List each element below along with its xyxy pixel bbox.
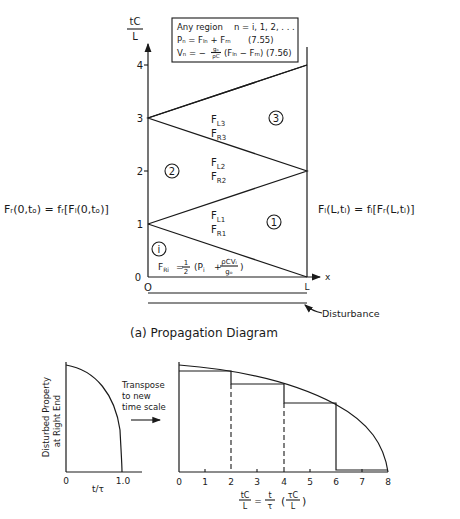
x-axis-label: x [325,272,331,282]
x-origin-label: O [144,282,152,293]
region-2-fl: FL2 [211,157,225,171]
propagation-diagram: tC L 0 1 2 3 4 x O L i 1 [4,16,415,340]
svg-text:1: 1 [202,477,208,487]
transpose-line-2: to new [122,391,151,401]
svg-text:): ) [240,262,244,272]
svg-text:ρCVᵢ: ρCVᵢ [221,258,236,266]
y-tick-4: 4 [137,60,143,71]
svg-text:t: t [268,491,271,500]
characteristic-line [148,65,307,118]
disturbance-arrow [305,305,322,313]
region-1-label: 1 [271,217,277,228]
region-3-fl: FL3 [211,114,225,128]
svg-text:3: 3 [254,477,260,487]
svg-text:2: 2 [184,268,188,276]
right-plot: 0 1 2 3 4 5 6 7 8 tC L = t τ ( τC L ) [176,362,391,511]
transpose-note: Transpose to new time scale [121,380,166,420]
legend-ref-7-56: (7.56) [266,48,292,58]
svg-text:L: L [243,502,248,511]
y-tick-1: 1 [137,219,143,230]
legend-any-region: Any region [177,22,223,32]
legend-eq-7-56-rhs: (Fₗₙ − Fᵣₙ) [224,48,263,58]
svg-text:L: L [291,502,296,511]
left-plot-ylabel-2: at Right End [52,395,62,447]
y-tick-3: 3 [137,113,143,124]
svg-text:=: = [254,496,262,506]
left-plot-ylabel-1: Disturbed Property [41,377,51,457]
x-end-label: L [304,282,309,292]
svg-text:τ: τ [268,502,273,511]
transpose-line-1: Transpose [121,380,165,390]
right-plot-xlabel: tC L = t τ ( τC L ) [239,491,306,511]
left-plot-xtick-1: 1.0 [116,476,131,486]
region-1-fr: FR1 [211,224,226,238]
legend-ref-7-55: (7.55) [248,35,274,45]
right-boundary-condition: Fₗ(L,tₗ) = fₗ[Fᵣ(L,tₗ)] [318,203,415,216]
svg-text:1: 1 [184,259,188,267]
legend-n-values: n = i, 1, 2, . . . [234,22,295,32]
svg-text:2: 2 [228,477,234,487]
right-plot-xtick-labels: 0 1 2 3 4 5 6 7 8 [176,477,391,487]
disturbance-label: Disturbance [322,308,380,319]
region-2-fr: FR2 [211,171,226,185]
left-plot-xtick-0: 0 [63,476,69,486]
svg-text:6: 6 [333,477,339,487]
region-i-label: i [158,244,161,255]
svg-text:τC: τC [288,491,299,500]
svg-text:): ) [302,495,306,508]
svg-text:8: 8 [385,477,391,487]
figure-canvas: tC L 0 1 2 3 4 x O L i 1 [0,0,460,519]
y-axis-label-den: L [132,31,138,42]
svg-text:7: 7 [359,477,365,487]
svg-text:tC: tC [241,491,250,500]
characteristic-zigzag [148,65,307,224]
legend-frac-den: ρC [212,53,219,60]
region-2-label: 2 [169,166,175,177]
svg-text:gₒ: gₒ [225,268,232,276]
region-invariants: FL3 FR3 FL2 FR2 FL1 FR1 [211,114,226,238]
region-1-fl: FL1 [211,210,225,224]
region-3-label: 3 [273,113,279,124]
legend-box: Any region n = i, 1, 2, . . . Pₙ = Fₗₙ +… [172,18,298,62]
svg-text:(Pi: (Pi [194,262,205,273]
svg-text:FRi: FRi [158,262,169,273]
left-plot-xlabel: t/τ [92,484,104,494]
left-boundary-condition: Fᵣ(0,tₒ) = fᵣ[Fₗ(0,tₒ)] [4,203,109,216]
legend-eq-7-56-lhs: Vₙ = − [177,48,206,58]
y-tick-2: 2 [137,166,143,177]
caption-a: (a) Propagation Diagram [130,326,278,340]
svg-text:0: 0 [176,477,182,487]
svg-text:4: 4 [281,477,287,487]
y-ticks: 0 1 2 3 4 [135,60,148,283]
y-axis-label-num: tC [130,16,141,27]
transpose-line-3: time scale [122,402,166,412]
region-i-formula: FRi = 1 2 (Pi + ρCVᵢ gₒ ) [158,258,244,276]
svg-text:5: 5 [307,477,313,487]
y-tick-0: 0 [135,272,141,283]
legend-eq-7-55: Pₙ = Fₗₙ + Fᵣₙ [177,35,231,45]
svg-text:(: ( [281,495,285,508]
disturbance-curve [66,365,122,472]
